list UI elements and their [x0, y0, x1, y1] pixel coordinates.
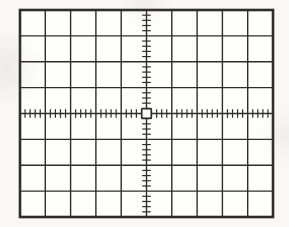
scanned-page — [0, 0, 289, 227]
oscilloscope-graticule — [0, 0, 289, 227]
center-square-marker — [142, 109, 151, 118]
graticule-svg — [0, 0, 289, 227]
